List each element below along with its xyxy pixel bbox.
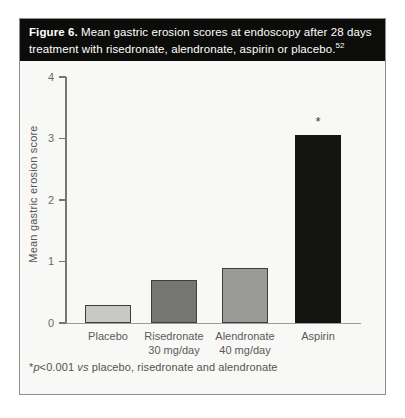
y-tick-label: 0 xyxy=(30,318,54,329)
bar-alendronate xyxy=(222,268,268,323)
footnote-tail: placebo, risedronate and alendronate xyxy=(89,361,278,373)
y-tick-mark xyxy=(59,322,66,324)
significance-asterisk: * xyxy=(308,114,328,129)
y-tick-mark xyxy=(59,138,66,140)
figure-6-panel: Figure 6. Mean gastric erosion scores at… xyxy=(0,0,405,418)
y-tick-label: 4 xyxy=(30,72,54,83)
figure-caption: Figure 6. Mean gastric erosion scores at… xyxy=(20,19,385,61)
figure-caption-label: Figure 6. xyxy=(29,26,78,38)
figure-caption-reference: 52 xyxy=(335,41,344,50)
y-tick-label: 1 xyxy=(30,256,54,267)
y-tick-label: 3 xyxy=(30,133,54,144)
y-tick-mark xyxy=(59,261,66,263)
figure-box: Figure 6. Mean gastric erosion scores at… xyxy=(19,18,386,395)
plot-area: Mean gastric erosion score 01234PlaceboR… xyxy=(20,61,385,351)
footnote-value: <0.001 xyxy=(40,361,78,373)
y-tick-mark xyxy=(59,199,66,201)
bar-aspirin xyxy=(295,135,341,323)
footnote: *p<0.001 vs placebo, risedronate and ale… xyxy=(29,361,278,373)
bar-risedronate xyxy=(151,280,197,323)
x-tick-label-aspirin: Aspirin xyxy=(263,329,373,343)
bar-placebo xyxy=(85,305,131,323)
figure-caption-text: Mean gastric erosion scores at endoscopy… xyxy=(29,26,372,55)
y-tick-mark xyxy=(59,76,66,78)
footnote-vs: vs xyxy=(77,361,88,373)
y-tick-label: 2 xyxy=(30,195,54,206)
